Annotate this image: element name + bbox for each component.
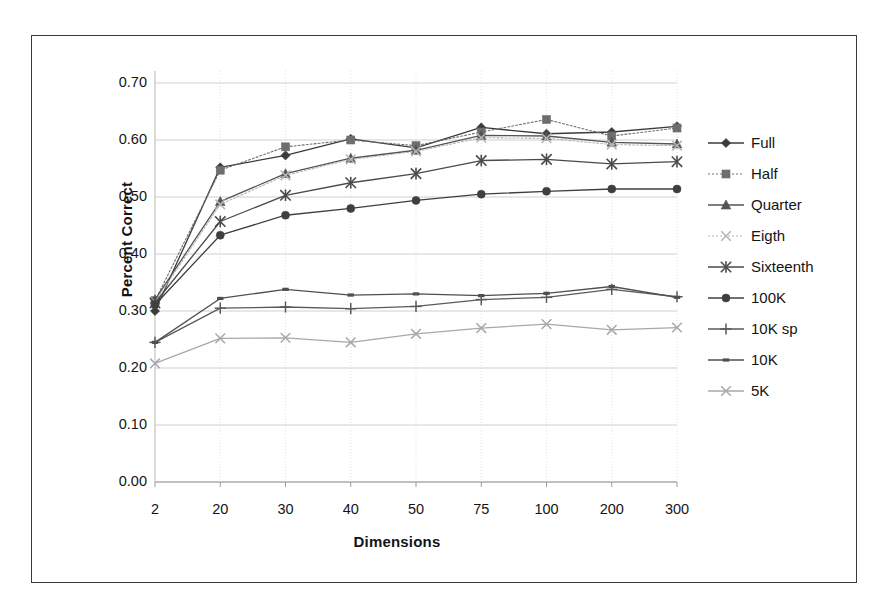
data-point-marker	[673, 185, 681, 193]
data-point-marker	[722, 170, 730, 178]
chart-canvas: Percent Correct Dimensions 0.000.100.200…	[32, 36, 858, 584]
data-point-marker	[216, 231, 224, 239]
legend-item-full[interactable]: Full	[706, 127, 850, 158]
legend-marker-plus-icon	[706, 320, 746, 338]
legend-marker-square-icon	[706, 165, 746, 183]
data-point-marker	[282, 211, 290, 219]
legend-item-eigth[interactable]: Eigth	[706, 220, 850, 251]
data-point-marker	[345, 303, 356, 314]
data-point-marker	[720, 323, 731, 334]
legend-item-quarter[interactable]: Quarter	[706, 189, 850, 220]
data-point-marker	[281, 151, 290, 160]
x-axis-title: Dimensions	[132, 533, 662, 550]
data-point-marker	[721, 138, 730, 147]
data-point-marker	[280, 189, 290, 201]
data-point-marker	[215, 303, 226, 314]
x-tick-label: 2	[131, 502, 179, 517]
legend-marker-x-icon	[706, 382, 746, 400]
data-point-marker	[215, 216, 225, 228]
x-tick-label: 75	[457, 502, 505, 517]
chart-legend: FullHalfQuarterEigthSixteenth100K10K sp1…	[702, 121, 852, 412]
legend-marker-dash-icon	[706, 351, 746, 369]
legend-item-sixteenth[interactable]: Sixteenth	[706, 251, 850, 282]
series-line	[155, 324, 677, 363]
x-tick-label: 20	[196, 502, 244, 517]
legend-marker-diamond-icon	[706, 134, 746, 152]
y-tick-label: 0.70	[89, 75, 147, 90]
series-line	[155, 135, 677, 299]
legend-marker-triangle-icon	[706, 196, 746, 214]
legend-item-half[interactable]: Half	[706, 158, 850, 189]
y-tick-label: 0.00	[89, 474, 147, 489]
data-point-marker	[282, 143, 290, 151]
y-tick-label: 0.30	[89, 303, 147, 318]
legend-item-label: 5K	[746, 382, 769, 399]
data-point-marker	[347, 204, 355, 212]
data-point-marker	[347, 136, 355, 144]
y-tick-label: 0.40	[89, 246, 147, 261]
x-tick-label: 30	[262, 502, 310, 517]
x-tick-label: 100	[523, 502, 571, 517]
legend-marker-circle-icon	[706, 289, 746, 307]
data-point-marker	[216, 166, 224, 174]
legend-item-label: 100K	[746, 289, 786, 306]
data-point-marker	[723, 358, 729, 361]
data-point-marker	[412, 196, 420, 204]
data-point-marker	[348, 293, 354, 296]
data-point-marker	[722, 294, 730, 302]
x-tick-label: 50	[392, 502, 440, 517]
data-point-marker	[217, 297, 223, 300]
legend-item-label: Sixteenth	[746, 258, 814, 275]
legend-item-100k[interactable]: 100K	[706, 282, 850, 313]
legend-item-label: 10K sp	[746, 320, 798, 337]
data-point-marker	[282, 288, 288, 291]
legend-item-label: Quarter	[746, 196, 802, 213]
data-point-marker	[151, 301, 159, 309]
y-tick-label: 0.10	[89, 417, 147, 432]
legend-item-label: Full	[746, 134, 775, 151]
x-tick-label: 40	[327, 502, 375, 517]
x-tick-label: 300	[653, 502, 701, 517]
data-point-marker	[609, 285, 615, 288]
data-point-marker	[477, 190, 485, 198]
legend-item-label: Half	[746, 165, 778, 182]
figure-frame: Percent Correct Dimensions 0.000.100.200…	[31, 35, 857, 583]
data-point-marker	[608, 185, 616, 193]
data-point-marker	[152, 341, 158, 344]
legend-item-10k-sp[interactable]: 10K sp	[706, 313, 850, 344]
legend-item-label: 10K	[746, 351, 778, 368]
data-point-marker	[543, 187, 551, 195]
data-point-marker	[674, 296, 680, 299]
legend-item-10k[interactable]: 10K	[706, 344, 850, 375]
y-tick-label: 0.20	[89, 360, 147, 375]
legend-marker-x-icon	[706, 227, 746, 245]
data-point-marker	[410, 301, 421, 312]
legend-item-5k[interactable]: 5K	[706, 375, 850, 406]
data-point-marker	[673, 124, 681, 132]
x-tick-label: 200	[588, 502, 636, 517]
legend-item-label: Eigth	[746, 227, 785, 244]
series-line	[155, 138, 677, 302]
legend-marker-asterisk-icon	[706, 258, 746, 276]
data-point-marker	[413, 292, 419, 295]
data-point-marker	[543, 115, 551, 123]
data-point-marker	[478, 294, 484, 297]
series-sixteenth	[150, 154, 682, 309]
y-tick-label: 0.50	[89, 189, 147, 204]
data-point-marker	[543, 292, 549, 295]
y-tick-label: 0.60	[89, 132, 147, 147]
